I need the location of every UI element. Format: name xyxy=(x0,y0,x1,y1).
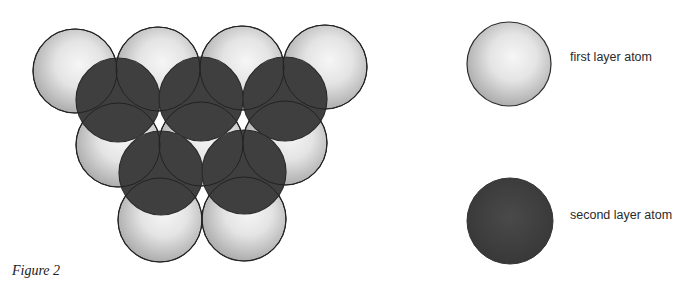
close-packed-layers-figure xyxy=(0,0,700,283)
second-layer-atom xyxy=(119,131,203,215)
atom-packing-diagram: first layer atom second layer atom Figur… xyxy=(0,0,700,283)
legend-swatches xyxy=(467,22,553,264)
second-layer-atom xyxy=(202,130,286,214)
second-layer-atom xyxy=(76,58,160,142)
legend-first-layer-atom-swatch xyxy=(467,22,551,106)
legend-second-layer-atom-swatch xyxy=(467,178,553,264)
legend-label-second-layer: second layer atom xyxy=(570,208,672,222)
second-layer-atom xyxy=(243,57,327,141)
second-layer-atom xyxy=(159,57,243,141)
legend-label-first-layer: first layer atom xyxy=(570,50,652,64)
figure-caption: Figure 2 xyxy=(12,263,60,279)
